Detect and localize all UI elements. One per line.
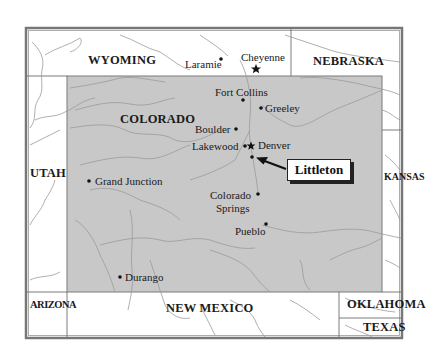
state-label-arizona: ARIZONA xyxy=(30,300,76,311)
city-label-grand-junction: Grand Junction xyxy=(95,176,163,187)
state-label-oklahoma: OKLAHOMA xyxy=(347,298,426,311)
littleton-callout: Littleton xyxy=(287,159,351,181)
state-label-nebraska: NEBRASKA xyxy=(313,55,384,68)
city-label-colorado-springs-line2: Springs xyxy=(216,203,250,214)
city-label-cheyenne: Cheyenne xyxy=(241,52,285,63)
city-label-fort-collins: Fort Collins xyxy=(215,87,268,98)
city-label-pueblo: Pueblo xyxy=(235,226,266,237)
city-label-denver: Denver xyxy=(258,140,290,151)
city-label-greeley: Greeley xyxy=(265,103,300,114)
state-label-utah: UTAH xyxy=(30,167,66,180)
city-label-durango: Durango xyxy=(125,272,164,283)
state-label-texas: TEXAS xyxy=(363,321,406,334)
city-label-lakewood: Lakewood xyxy=(192,141,238,152)
state-label-kansas: KANSAS xyxy=(384,172,425,182)
city-label-laramie: Laramie xyxy=(185,59,222,70)
city-label-boulder: Boulder xyxy=(195,124,230,135)
city-label-colorado-springs-line1: Colorado xyxy=(210,190,251,201)
state-label-wyoming: WYOMING xyxy=(88,54,156,67)
state-label-new-mexico: NEW MEXICO xyxy=(166,302,254,315)
state-label-colorado: COLORADO xyxy=(120,113,195,126)
